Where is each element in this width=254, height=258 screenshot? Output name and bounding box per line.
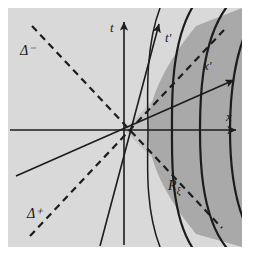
- region-label-subscript: ξ: [177, 185, 182, 197]
- minkowski-diagram-figure: t t′ x x′ Δ⁻ Δ⁺ Rξ: [0, 0, 254, 258]
- axis-x-prime-label: x′: [202, 58, 212, 73]
- axis-t-prime-label: t′: [165, 30, 172, 45]
- asymptote-delta-plus-label: Δ⁺: [26, 206, 44, 221]
- axis-x-label: x: [225, 109, 232, 124]
- axis-t-label: t: [110, 20, 114, 35]
- diagram-canvas: t t′ x x′ Δ⁻ Δ⁺ Rξ: [0, 0, 254, 258]
- region-label-script: R: [167, 178, 177, 193]
- asymptote-delta-minus-label: Δ⁻: [19, 43, 37, 58]
